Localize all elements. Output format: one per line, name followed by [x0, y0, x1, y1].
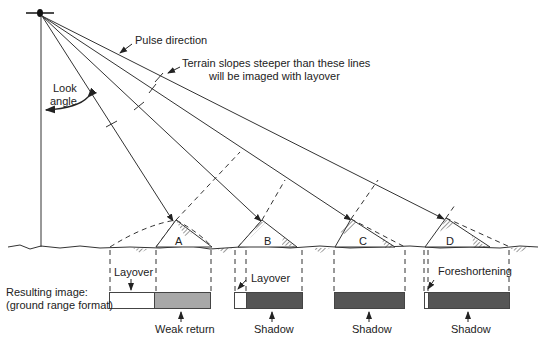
pulse-direction-arrow [120, 44, 132, 53]
feature-label-c: C [359, 235, 367, 248]
shadow-label-b: Shadow [254, 323, 294, 336]
feature-label-b: B [264, 235, 271, 248]
image-bar-d-shadow [428, 292, 510, 309]
terrain-note-arrow [168, 67, 180, 73]
pulse-lines [42, 16, 444, 221]
feature-label-d: D [446, 235, 454, 248]
resulting-image-line2: (ground range format) [6, 299, 113, 312]
layover-label-b: Layover [251, 272, 290, 285]
feature-label-a: A [175, 235, 182, 248]
mountains [156, 218, 490, 247]
look-angle-line1: Look [53, 82, 77, 95]
shadow-label-c: Shadow [352, 323, 392, 336]
image-bar-b-shadow [246, 292, 303, 309]
antenna-icon [26, 9, 54, 17]
image-bar-a-weak-return [154, 292, 211, 309]
tick-marks [106, 73, 163, 127]
terrain-note-line1: Terrain slopes steeper than these lines [182, 57, 370, 70]
image-bar-c-shadow [334, 292, 405, 309]
layover-label-a: Layover [114, 266, 153, 279]
weak-return-label: Weak return [155, 323, 215, 336]
look-angle-line2: angle [50, 95, 77, 108]
terrain-note-line2: will be imaged with layover [209, 70, 340, 83]
foreshortening-label-d: Foreshortening [438, 265, 512, 278]
resulting-image-line1: Resulting image: [6, 286, 88, 299]
shadow-label-d: Shadow [451, 323, 491, 336]
image-bar-a-layover [109, 292, 155, 309]
pulse-direction-label: Pulse direction [135, 34, 207, 47]
